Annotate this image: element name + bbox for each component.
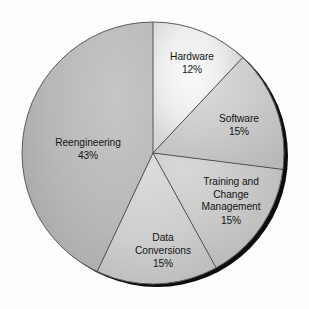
slice-label-reengineering: Reengineering: [55, 137, 121, 148]
slice-percent-software: 15%: [229, 126, 249, 137]
slice-label-line: Training and: [203, 176, 259, 187]
slice-label-line: Change: [213, 188, 249, 199]
slice-label-line: Management: [202, 201, 261, 212]
slice-label-line: Hardware: [170, 51, 214, 62]
slice-label-line: Reengineering: [55, 137, 121, 148]
slice-label-line: Software: [219, 113, 259, 124]
slice-label-line: Data: [152, 232, 174, 243]
slice-percent-reengineering: 43%: [78, 150, 98, 161]
slice-percent-training-and-change-management: 15%: [221, 215, 241, 226]
slice-percent-hardware: 12%: [182, 64, 202, 75]
slice-label-hardware: Hardware: [170, 51, 214, 62]
slice-percent-data-conversions: 15%: [153, 258, 173, 269]
pie-chart-canvas: Hardware12%Software15%Training andChange…: [0, 0, 309, 309]
slice-label-software: Software: [219, 113, 259, 124]
slice-label-line: Conversions: [135, 244, 191, 255]
pie-chart-figure: Hardware12%Software15%Training andChange…: [0, 0, 309, 309]
